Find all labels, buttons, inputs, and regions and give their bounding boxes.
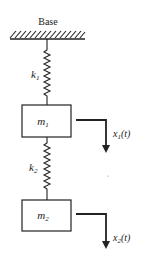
stray-dot bbox=[107, 175, 108, 176]
diagram-canvas: Base k1 m1 x1(t) k2 m2 bbox=[0, 0, 146, 268]
spring-k2 bbox=[44, 137, 50, 200]
displacement-arrow-x2 bbox=[76, 214, 110, 249]
displacement-x1-label: x1(t) bbox=[112, 128, 131, 141]
displacement-x2-label: x2(t) bbox=[112, 232, 131, 245]
base-label: Base bbox=[38, 16, 58, 27]
spring-k2-label: k2 bbox=[29, 161, 38, 175]
ground-hatch bbox=[10, 31, 85, 39]
displacement-arrow-x1 bbox=[76, 120, 110, 153]
spring-k1-label: k1 bbox=[31, 68, 39, 82]
spring-k1 bbox=[44, 39, 50, 105]
